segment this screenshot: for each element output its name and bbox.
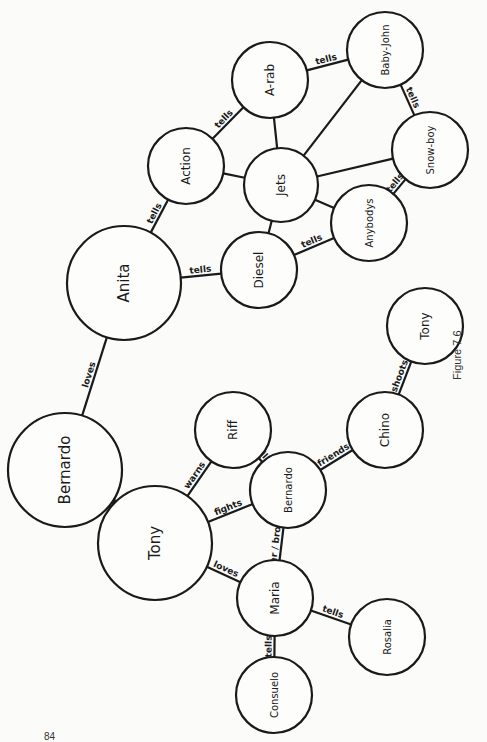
node-snow-boy: Snow-boy (392, 112, 468, 188)
page-number: 84 (44, 731, 55, 742)
node-rosalia: Rosalia (349, 599, 425, 675)
edge-tony-1-riff: warns (182, 460, 212, 496)
node-label: Diesel (252, 252, 266, 289)
edge-jets-action (223, 173, 244, 177)
node-tony-1: Tony (98, 486, 212, 600)
node-action: Action (148, 128, 224, 204)
node-label: Bernardo (283, 467, 294, 513)
edge-maria-tony-1: loves (207, 559, 241, 582)
node-jets: Jets (244, 148, 318, 222)
edge-bernardo-2-chino: friends (316, 441, 353, 470)
edge-line (304, 80, 362, 156)
edge-line (317, 159, 393, 177)
figure-caption: Figure 7.6 (451, 330, 463, 380)
edge-bernardo-1-anita: loves (80, 337, 107, 415)
edge-jets-baby-john (304, 80, 362, 156)
edge-tony-1-bernardo-2: fights (208, 497, 253, 522)
node-label: Anita (115, 263, 133, 302)
edge-maria-rosalia: tells (311, 604, 351, 625)
edge-maria-consuelo: tells (263, 635, 274, 657)
node-label: Riff (226, 419, 240, 440)
edge-chino-tony-2: shoots (389, 358, 412, 394)
node-label: Anybodys (364, 198, 375, 247)
edge-line (223, 173, 244, 177)
edge-baby-john-snow-boy: tells (401, 85, 422, 116)
edge-anita-action: tells (145, 200, 169, 233)
edge-diesel-anybodys: tells (294, 232, 334, 255)
edge-label: tells (263, 635, 273, 657)
edge-jets-anybodys (315, 200, 334, 208)
node-bernardo-2: Bernardo (250, 452, 326, 528)
edge-label: tells (189, 264, 212, 276)
node-label: Tony (418, 312, 432, 340)
node-baby-john: Baby-John (347, 12, 423, 88)
edge-anita-diesel: tells (181, 264, 221, 278)
node-consuelo: Consuelo (236, 657, 312, 733)
node-riff: Riff (195, 392, 271, 468)
node-label: Rosalia (382, 619, 393, 655)
node-anita: Anita (67, 226, 181, 340)
node-label: Baby-John (380, 25, 391, 76)
node-maria: Maria (237, 560, 313, 636)
node-label: A-rab (263, 64, 277, 96)
edge-action-a-rab: tells (212, 107, 243, 139)
edge-jets-a-rab (274, 118, 277, 148)
node-label: Tony (146, 526, 164, 561)
node-label: Jets (274, 174, 288, 197)
node-label: Snow-boy (425, 125, 436, 174)
node-label: Bernardo (56, 436, 74, 505)
node-anybodys: Anybodys (331, 185, 407, 261)
edge-line (269, 221, 272, 233)
node-a-rab: A-rab (232, 42, 308, 118)
node-label: Maria (268, 581, 282, 614)
node-bernardo-1: Bernardo (8, 413, 122, 527)
edge-jets-snow-boy (317, 159, 393, 177)
node-diesel: Diesel (221, 232, 297, 308)
edge-jets-diesel (269, 221, 272, 233)
edge-line (274, 118, 277, 148)
node-label: Consuelo (269, 672, 280, 718)
node-chino: Chino (347, 392, 423, 468)
node-label: Chino (378, 413, 392, 447)
edge-a-rab-baby-john: tells (307, 52, 348, 71)
node-label: Action (179, 147, 193, 185)
edge-line (315, 200, 334, 208)
